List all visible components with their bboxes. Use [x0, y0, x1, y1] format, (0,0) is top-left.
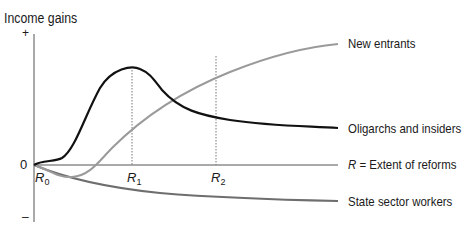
series-oligarchs-insiders [34, 67, 338, 165]
y-tick-plus: + [22, 26, 29, 40]
r0-label: R0 [35, 170, 49, 187]
r2-letter: R [211, 170, 220, 185]
legend-oligarchs-insiders: Oligarchs and insiders [348, 121, 461, 136]
r2-label: R2 [211, 170, 225, 187]
x-axis-rest: = Extent of reforms [356, 157, 456, 172]
y-tick-zero: 0 [20, 157, 27, 172]
r1-letter: R [127, 170, 136, 185]
r1-label: R1 [127, 170, 141, 187]
y-axis-title: Income gains [4, 10, 77, 26]
r2-sub: 2 [220, 177, 225, 187]
series-state-sector-workers [34, 165, 338, 201]
r1-sub: 1 [136, 177, 141, 187]
x-axis-title: R = Extent of reforms [348, 157, 456, 172]
legend-new-entrants: New entrants [348, 36, 415, 51]
r0-letter: R [35, 170, 44, 185]
series-new-entrants [34, 44, 338, 177]
r0-sub: 0 [44, 177, 49, 187]
y-tick-minus: – [22, 210, 29, 224]
legend-state-sector-workers: State sector workers [348, 194, 452, 209]
